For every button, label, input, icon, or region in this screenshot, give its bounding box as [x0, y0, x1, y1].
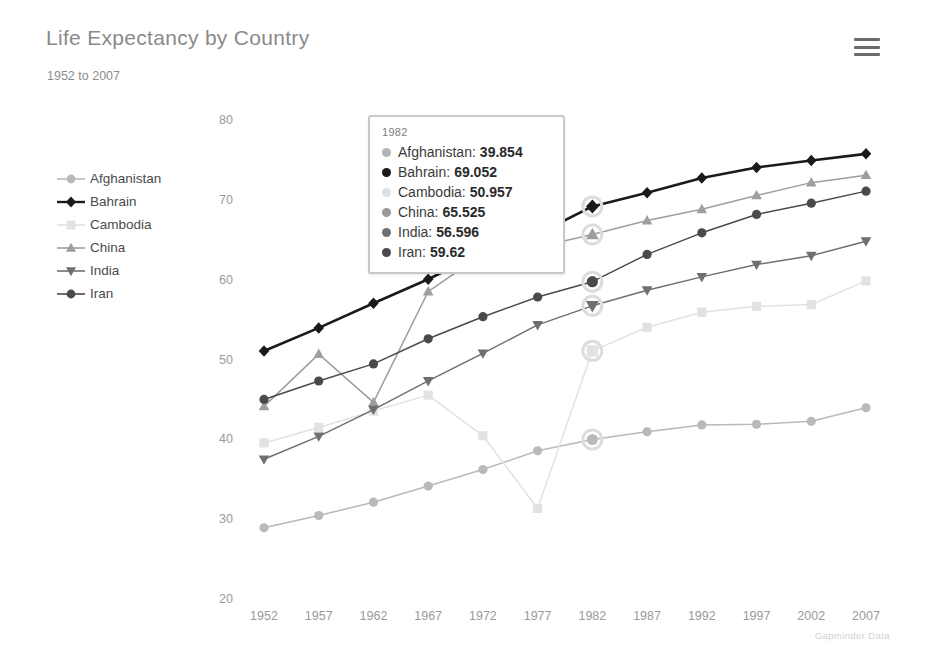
tooltip-series-dot [382, 228, 391, 237]
x-axis-tick-label: 1992 [688, 609, 716, 623]
data-point-circle[interactable] [424, 334, 433, 343]
data-point-diamond[interactable] [751, 162, 762, 174]
data-point-square[interactable] [752, 302, 761, 311]
data-point-square[interactable] [697, 308, 706, 317]
data-point-circle[interactable] [697, 228, 706, 237]
data-point-diamond[interactable] [806, 155, 817, 167]
data-point-square[interactable] [259, 438, 268, 447]
data-point-triangle-down[interactable] [532, 321, 543, 330]
data-point-circle[interactable] [807, 417, 816, 426]
data-point-circle[interactable] [587, 276, 598, 287]
tooltip-series-name: Cambodia: [398, 182, 466, 202]
y-axis-tick-label: 20 [219, 592, 233, 606]
data-point-diamond[interactable] [697, 172, 708, 184]
x-axis-tick-label: 1967 [414, 609, 442, 623]
tooltip-row: Iran:59.62 [382, 242, 551, 262]
data-point-diamond[interactable] [368, 297, 379, 309]
data-point-circle[interactable] [369, 359, 378, 368]
chart-card: Life Expectancy by Country 1952 to 2007 … [0, 0, 926, 669]
data-point-circle[interactable] [67, 289, 76, 298]
data-point-circle[interactable] [259, 395, 268, 404]
data-point-triangle-up[interactable] [313, 349, 324, 358]
x-axis-tick-label: 1972 [469, 609, 497, 623]
series-line[interactable] [264, 191, 866, 399]
tooltip-series-name: Iran: [398, 242, 426, 262]
y-axis-tick-label: 70 [219, 193, 233, 207]
data-point-circle[interactable] [642, 250, 651, 259]
data-point-diamond[interactable] [586, 199, 599, 213]
data-point-circle[interactable] [752, 210, 761, 219]
data-point-square[interactable] [587, 345, 598, 356]
data-point-circle[interactable] [67, 174, 76, 183]
x-axis-tick-label: 1977 [524, 609, 552, 623]
data-point-square[interactable] [807, 300, 816, 309]
x-axis-tick-label: 2002 [797, 609, 825, 623]
x-axis-tick-label: 1962 [360, 609, 388, 623]
data-point-square[interactable] [424, 391, 433, 400]
legend-item-label: Afghanistan [90, 171, 161, 186]
y-axis-tick-label: 60 [219, 273, 233, 287]
data-point-circle[interactable] [478, 312, 487, 321]
data-point-circle[interactable] [861, 403, 870, 412]
data-point-square[interactable] [478, 431, 487, 440]
data-point-circle[interactable] [314, 376, 323, 385]
legend-item-iran[interactable]: Iran [56, 282, 206, 305]
data-point-triangle-down[interactable] [259, 455, 270, 464]
data-point-circle[interactable] [533, 446, 542, 455]
data-point-triangle-down[interactable] [478, 349, 489, 358]
tooltip-row: India:56.596 [382, 222, 551, 242]
data-point-circle[interactable] [861, 187, 870, 196]
data-point-diamond[interactable] [313, 322, 324, 334]
data-point-circle[interactable] [478, 465, 487, 474]
series-line[interactable] [264, 241, 866, 459]
data-point-circle[interactable] [259, 523, 268, 532]
tooltip-row: Afghanistan:39.854 [382, 142, 551, 162]
data-point-diamond[interactable] [66, 196, 76, 207]
data-point-circle[interactable] [314, 511, 323, 520]
data-point-circle[interactable] [752, 420, 761, 429]
series-cambodia [259, 276, 870, 513]
data-point-triangle-up[interactable] [861, 170, 872, 179]
plot-area[interactable]: 2030405060708019521957196219671972197719… [0, 0, 926, 669]
data-point-diamond[interactable] [259, 345, 270, 357]
data-point-square[interactable] [642, 323, 651, 332]
tooltip-series-name: Bahrain: [398, 162, 450, 182]
legend-item-india[interactable]: India [56, 259, 206, 282]
data-point-triangle-down[interactable] [423, 377, 434, 386]
data-point-diamond[interactable] [423, 274, 434, 286]
data-point-circle[interactable] [697, 420, 706, 429]
y-axis-tick-label: 30 [219, 512, 233, 526]
tooltip-series-name: India: [398, 222, 432, 242]
data-point-circle[interactable] [533, 292, 542, 301]
y-axis-tick-label: 80 [219, 113, 233, 127]
data-point-diamond[interactable] [861, 148, 872, 160]
series-line[interactable] [264, 408, 866, 528]
legend-item-china[interactable]: China [56, 236, 206, 259]
x-axis-tick-label: 2007 [852, 609, 880, 623]
data-point-circle[interactable] [424, 481, 433, 490]
tooltip-rows: Afghanistan:39.854Bahrain:69.052Cambodia… [382, 142, 551, 262]
legend-item-cambodia[interactable]: Cambodia [56, 213, 206, 236]
data-point-circle[interactable] [807, 199, 816, 208]
chart-svg: 2030405060708019521957196219671972197719… [0, 0, 926, 669]
data-point-circle[interactable] [642, 427, 651, 436]
data-point-circle[interactable] [369, 498, 378, 507]
data-point-square[interactable] [861, 276, 870, 285]
tooltip-row: Bahrain:69.052 [382, 162, 551, 182]
data-point-square[interactable] [314, 423, 323, 432]
series-line[interactable] [264, 154, 866, 351]
data-point-triangle-up[interactable] [423, 286, 434, 295]
legend-item-label: Bahrain [90, 194, 137, 209]
x-axis-tick-label: 1957 [305, 609, 333, 623]
data-point-square[interactable] [67, 220, 76, 229]
tooltip-series-dot [382, 248, 391, 257]
data-point-square[interactable] [533, 504, 542, 513]
tooltip-series-dot [382, 148, 391, 157]
legend-item-afghanistan[interactable]: Afghanistan [56, 167, 206, 190]
data-point-circle[interactable] [587, 434, 598, 445]
attribution-label: Gapminder Data [815, 630, 890, 641]
tooltip-series-value: 56.596 [436, 222, 479, 242]
data-point-diamond[interactable] [642, 187, 653, 199]
tooltip-series-value: 65.525 [442, 202, 485, 222]
legend-item-bahrain[interactable]: Bahrain [56, 190, 206, 213]
